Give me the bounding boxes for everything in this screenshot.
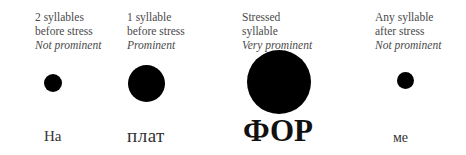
syllable-me: ме [393, 130, 408, 146]
syllable-for: ФОР [243, 113, 313, 149]
caption-two-before-stress: 2 syllables before stress Not prominent [35, 10, 101, 52]
syllable-plat: плат [127, 125, 165, 147]
caption-line: 2 syllables [35, 10, 101, 24]
caption-stressed-syllable: Stressed syllable Very prominent [242, 10, 312, 52]
syllable-na: На [44, 128, 62, 145]
caption-line: 1 syllable [127, 10, 185, 24]
caption-line: Any syllable [375, 10, 441, 24]
caption-line: after stress [375, 24, 441, 38]
caption-one-before-stress: 1 syllable before stress Prominent [127, 10, 185, 52]
prominence-dot-small [397, 72, 414, 89]
caption-line: before stress [127, 24, 185, 38]
prominence-label: Prominent [127, 38, 185, 52]
prominence-dot-large [247, 50, 311, 114]
caption-line: Stressed [242, 10, 312, 24]
prominence-dot-medium [128, 65, 165, 102]
prominence-label: Not prominent [375, 38, 441, 52]
prominence-dot-small [44, 74, 62, 92]
caption-after-stress: Any syllable after stress Not prominent [375, 10, 441, 52]
caption-line: syllable [242, 24, 312, 38]
caption-line: before stress [35, 24, 101, 38]
prominence-label: Not prominent [35, 38, 101, 52]
